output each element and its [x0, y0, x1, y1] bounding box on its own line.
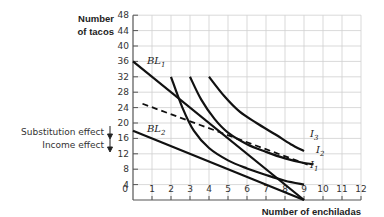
bl1-label: BL1	[146, 55, 165, 69]
i1-label: I1	[309, 159, 318, 173]
indifference-curve-chart: 123456789101112 4812162024283236404448 N…	[0, 0, 384, 217]
x-tick-label: 6	[244, 184, 250, 194]
origin-label: 0	[122, 184, 128, 194]
y-tick-label: 12	[118, 149, 129, 159]
income-effect-label: Income effect	[42, 140, 104, 150]
x-tick-label: 3	[187, 184, 193, 194]
series-bl2	[133, 131, 304, 200]
y-tick-label: 20	[118, 118, 130, 128]
y-tick-label: 8	[123, 164, 129, 174]
y-tick-label: 44	[118, 26, 130, 36]
x-tick-label: 4	[206, 184, 212, 194]
substitution-effect-label: Substitution effect	[21, 127, 104, 137]
down-arrow-icon	[108, 126, 113, 152]
x-tick-label: 2	[168, 184, 174, 194]
x-tick-label: 9	[301, 184, 307, 194]
y-tick-label: 24	[118, 103, 130, 113]
x-tick-labels: 123456789101112	[149, 184, 367, 194]
x-tick-label: 11	[336, 184, 347, 194]
series-i3	[209, 77, 304, 151]
y-tick-label: 16	[118, 133, 130, 143]
y-tick-labels: 4812162024283236404448	[118, 10, 130, 189]
y-tick-label: 36	[118, 56, 130, 66]
y-tick-label: 28	[118, 87, 130, 97]
i3-label: I3	[309, 128, 319, 142]
x-axis-title: Number of enchiladas	[262, 206, 361, 217]
y-tick-label: 40	[118, 41, 130, 51]
i2-label: I2	[315, 144, 325, 158]
x-tick-label: 5	[225, 184, 231, 194]
bl2-label: BL2	[146, 123, 166, 137]
y-axis-title-line2: of tacos	[78, 26, 114, 37]
x-tick-label: 12	[355, 184, 366, 194]
series-i1	[171, 77, 304, 185]
y-axis-title-line1: Number	[78, 13, 114, 24]
y-tick-label: 48	[118, 10, 130, 20]
grid-lines	[133, 15, 361, 200]
y-tick-label: 32	[118, 72, 129, 82]
x-tick-label: 1	[149, 184, 155, 194]
x-tick-label: 10	[317, 184, 329, 194]
